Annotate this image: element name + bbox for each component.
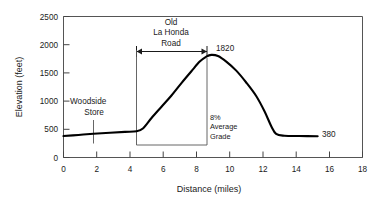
x-axis-ticks bbox=[64, 152, 363, 158]
y-tick-label-2000: 2000 bbox=[40, 41, 59, 50]
road-label-line3: Road bbox=[161, 39, 181, 48]
x-tick-label-12: 12 bbox=[258, 165, 268, 174]
chart-canvas: 2500 2000 1500 1000 500 0 0 2 4 6 8 bbox=[0, 0, 379, 206]
x-tick-label-10: 10 bbox=[225, 165, 235, 174]
woodside-store-annotation: Woodside Store bbox=[70, 97, 107, 144]
elevation-profile-curve bbox=[64, 55, 318, 136]
x-tick-label-16: 16 bbox=[325, 165, 335, 174]
x-tick-label-4: 4 bbox=[128, 165, 133, 174]
x-tick-label-6: 6 bbox=[161, 165, 166, 174]
road-span-arrow-right-head bbox=[202, 49, 208, 55]
y-tick-label-1000: 1000 bbox=[40, 97, 59, 106]
y-tick-label-1500: 1500 bbox=[40, 69, 59, 78]
end-elevation-label: 380 bbox=[322, 130, 336, 139]
road-span-arrow-left-head bbox=[137, 49, 143, 55]
x-tick-label-0: 0 bbox=[61, 165, 66, 174]
road-label-line1: Old bbox=[165, 18, 178, 27]
y-tick-label-2500: 2500 bbox=[40, 13, 59, 22]
y-tick-labels: 2500 2000 1500 1000 500 0 bbox=[40, 13, 59, 163]
x-tick-label-18: 18 bbox=[358, 165, 368, 174]
x-axis-title: Distance (miles) bbox=[177, 184, 242, 194]
x-tick-label-8: 8 bbox=[194, 165, 199, 174]
grade-label-line1: 8% bbox=[210, 113, 221, 122]
woodside-store-label-line1: Woodside bbox=[70, 97, 107, 106]
grade-label-line2: Average bbox=[210, 122, 237, 131]
grade-label-line3: Grade bbox=[210, 132, 231, 141]
y-tick-label-0: 0 bbox=[53, 154, 58, 163]
y-axis-title: Elevation (feet) bbox=[14, 57, 24, 118]
x-tick-labels: 0 2 4 6 8 10 12 14 16 18 bbox=[61, 165, 367, 174]
x-tick-label-14: 14 bbox=[292, 165, 302, 174]
average-grade-annotation: 8% Average Grade bbox=[210, 113, 237, 141]
peak-elevation-label: 1820 bbox=[216, 44, 235, 53]
road-label-line2: La Honda bbox=[153, 28, 189, 37]
woodside-store-label-line2: Store bbox=[84, 108, 104, 117]
x-tick-label-2: 2 bbox=[94, 165, 99, 174]
old-la-honda-road-annotation: Old La Honda Road bbox=[137, 18, 208, 146]
y-tick-label-500: 500 bbox=[44, 125, 58, 134]
elevation-profile-chart: 2500 2000 1500 1000 500 0 0 2 4 6 8 bbox=[0, 0, 379, 206]
